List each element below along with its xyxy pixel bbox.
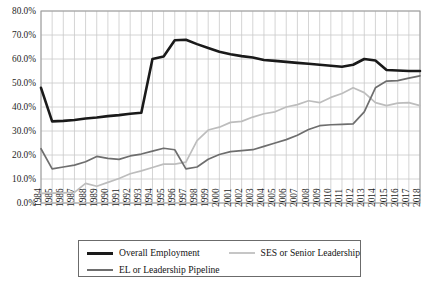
chart-figure: 0.0%10.0%20.0%30.0%40.0%50.0%60.0%70.0%8… [0, 0, 434, 283]
x-axis-tick-label: 1993 [133, 188, 143, 207]
x-axis-tick-label: 1997 [178, 188, 188, 207]
x-axis-tick-label: 1989 [89, 188, 99, 207]
legend-item-overall-employment: Overall Employment [87, 248, 229, 258]
x-axis-tick-label: 2007 [289, 188, 299, 207]
legend-swatch-el-or-leadership-pipeline [87, 269, 113, 271]
x-axis-tick-label: 2002 [234, 188, 244, 207]
x-axis-tick-label: 1987 [66, 188, 76, 207]
x-axis-tick-label: 2018 [412, 188, 422, 207]
x-axis-tick-label: 2017 [401, 188, 411, 207]
x-axis-tick-label: 1996 [167, 188, 177, 207]
y-axis-tick-label: 10.0% [12, 174, 36, 184]
legend-swatch-ses-or-senior-leadership [229, 252, 255, 254]
x-axis-tick-label: 1998 [189, 188, 199, 207]
y-axis-tick-label: 30.0% [12, 126, 36, 136]
x-axis-tick-label: 2008 [301, 188, 311, 207]
x-axis-tick-label: 1994 [144, 188, 154, 207]
legend-label-el-or-leadership-pipeline: EL or Leadership Pipeline [119, 265, 220, 275]
x-axis-tick-label: 2015 [379, 188, 389, 207]
x-axis-tick-label: 2000 [211, 188, 221, 207]
y-axis-tick-label: 70.0% [12, 30, 36, 40]
legend-label-overall-employment: Overall Employment [119, 248, 200, 258]
x-axis-tick-label: 2004 [256, 188, 266, 207]
x-axis-tick-label: 2010 [323, 188, 333, 207]
x-axis-tick-label: 1990 [100, 188, 110, 207]
x-axis-tick-label: 2003 [245, 188, 255, 207]
grid-lines [41, 11, 420, 203]
x-axis-tick-label: 1991 [111, 188, 121, 207]
x-axis-tick-label: 1984 [33, 188, 43, 207]
x-axis-tick-label: 1992 [122, 188, 132, 207]
x-axis-tick-label: 2006 [278, 188, 288, 207]
x-axis-tick-label: 2013 [356, 188, 366, 207]
x-axis-tick-label: 2011 [334, 188, 344, 207]
y-axis-tick-label: 60.0% [12, 54, 36, 64]
x-axis-tick-label: 2001 [223, 188, 233, 207]
x-axis-tick-label: 2009 [312, 188, 322, 207]
x-axis-tick-label: 1985 [44, 188, 54, 207]
legend-item-el-or-leadership-pipeline: EL or Leadership Pipeline [87, 265, 237, 275]
x-axis-tick-label: 1999 [200, 188, 210, 207]
y-axis-tick-label: 40.0% [12, 102, 36, 112]
x-axis-tick-label: 2014 [367, 188, 377, 207]
x-axis-tick-label: 2016 [390, 188, 400, 207]
legend-row-2: EL or Leadership Pipeline [79, 262, 360, 278]
x-axis-tick-label: 1988 [78, 188, 88, 207]
legend-swatch-overall-employment [87, 252, 113, 255]
x-axis-tick-label: 1986 [55, 188, 65, 207]
legend-label-ses-or-senior-leadership: SES or Senior Leadership [261, 248, 360, 258]
chart-legend: Overall Employment SES or Senior Leaders… [78, 240, 361, 277]
x-axis-tick-label: 1995 [156, 188, 166, 207]
y-axis-tick-label: 50.0% [12, 78, 36, 88]
y-axis-tick-label: 20.0% [12, 150, 36, 160]
legend-row-1: Overall Employment SES or Senior Leaders… [79, 241, 360, 262]
legend-item-ses-or-senior-leadership: SES or Senior Leadership [229, 248, 360, 258]
y-axis-tick-label: 80.0% [12, 6, 36, 16]
x-axis-tick-label: 2012 [345, 188, 355, 207]
x-axis-tick-label: 2005 [267, 188, 277, 207]
